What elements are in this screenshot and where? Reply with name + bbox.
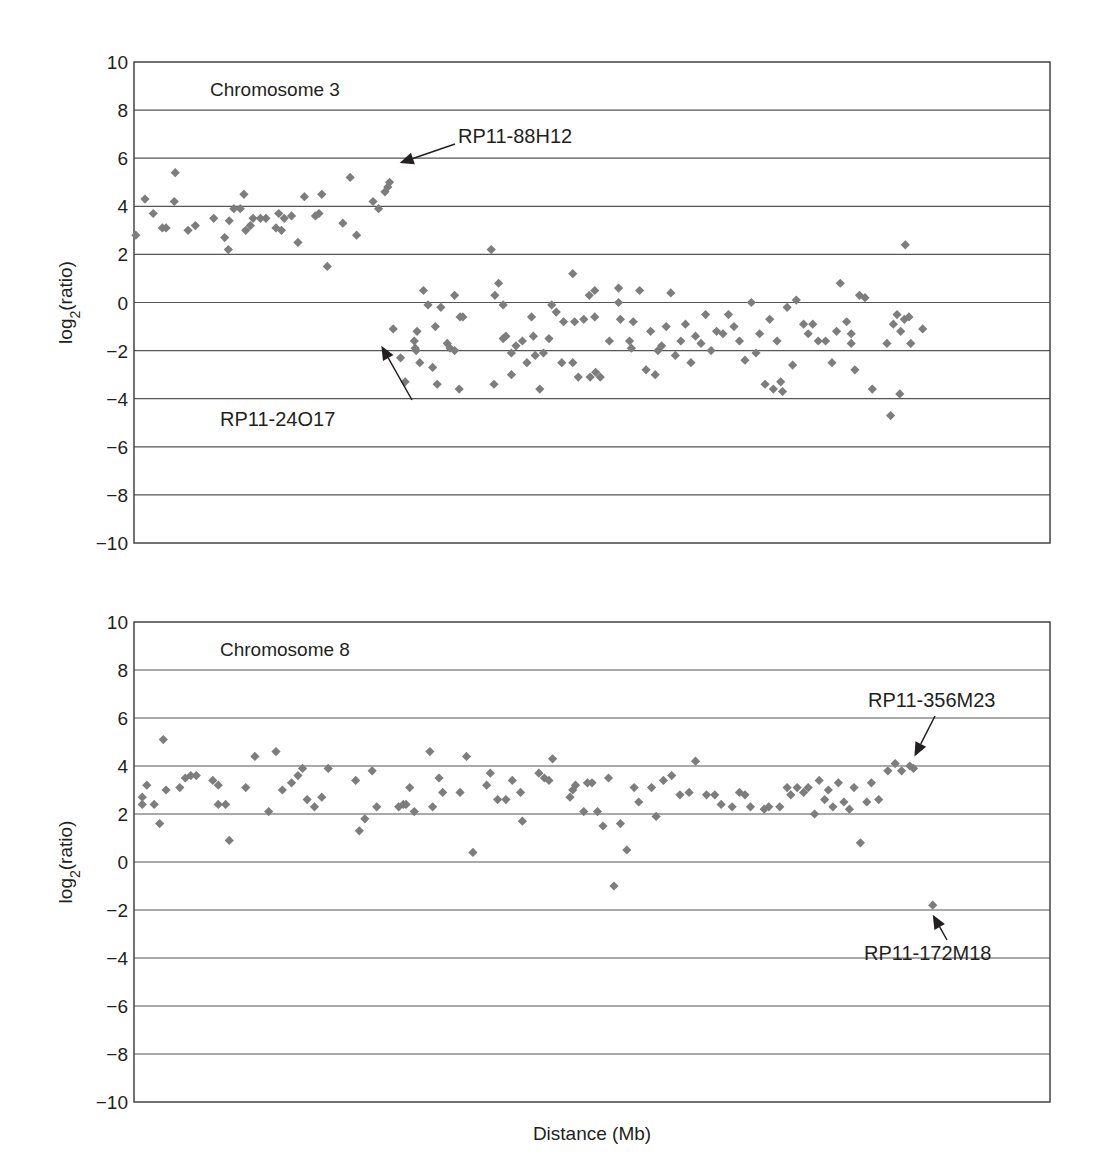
data-point <box>702 790 711 799</box>
data-point <box>776 377 785 386</box>
y-tick-label: 2 <box>117 804 128 825</box>
annotation-arrow-line <box>921 716 935 744</box>
gridlines <box>134 110 1050 495</box>
data-point <box>836 279 845 288</box>
data-point <box>346 173 355 182</box>
annotation-arrow-line <box>413 144 455 158</box>
data-point <box>310 802 319 811</box>
data-point <box>511 341 520 350</box>
annotation-label: RP11-172M18 <box>864 942 991 964</box>
data-point <box>892 310 901 319</box>
data-point <box>552 308 561 317</box>
data-point <box>434 773 443 782</box>
data-point <box>389 324 398 333</box>
data-point <box>225 836 234 845</box>
data-point <box>783 303 792 312</box>
data-point <box>696 339 705 348</box>
annotation-label: RP11-24O17 <box>220 408 335 430</box>
data-point <box>868 384 877 393</box>
data-point <box>740 356 749 365</box>
data-point <box>850 365 859 374</box>
data-point <box>874 795 883 804</box>
panel-title: Chromosome 8 <box>220 639 350 660</box>
data-point <box>625 336 634 345</box>
chromosome-8-panel: 1086420−2−4−6−8−10 Chromosome 8 log2(rat… <box>55 612 1050 1144</box>
data-point <box>241 783 250 792</box>
data-point <box>419 286 428 295</box>
data-point <box>897 766 906 775</box>
data-point <box>338 219 347 228</box>
data-point <box>209 214 218 223</box>
data-point <box>396 353 405 362</box>
data-point <box>522 358 531 367</box>
data-point <box>490 291 499 300</box>
data-point <box>746 802 755 811</box>
data-point <box>598 821 607 830</box>
data-point <box>883 766 892 775</box>
data-point <box>751 348 760 357</box>
data-point <box>374 204 383 213</box>
data-point <box>918 324 927 333</box>
data-point <box>886 411 895 420</box>
data-point <box>765 315 774 324</box>
data-point <box>493 795 502 804</box>
data-point <box>323 262 332 271</box>
data-point <box>352 231 361 240</box>
data-point <box>425 747 434 756</box>
data-point <box>351 776 360 785</box>
gridlines <box>134 670 1050 1054</box>
y-axis-label-subscript: 2 <box>67 870 83 878</box>
y-tick-label: −4 <box>106 948 128 969</box>
data-point <box>410 807 419 816</box>
data-point <box>630 783 639 792</box>
annotation-arrow-head <box>933 915 945 930</box>
data-point <box>428 802 437 811</box>
y-tick-labels: 1086420−2−4−6−8−10 <box>96 612 129 1113</box>
data-point <box>220 233 229 242</box>
data-point <box>889 320 898 329</box>
data-point <box>579 807 588 816</box>
data-point <box>278 785 287 794</box>
data-point <box>799 320 808 329</box>
data-point <box>867 778 876 787</box>
data-point <box>489 380 498 389</box>
data-point <box>539 348 548 357</box>
data-point <box>287 778 296 787</box>
data-point <box>298 764 307 773</box>
data-point <box>622 845 631 854</box>
data-point <box>175 783 184 792</box>
data-point <box>862 797 871 806</box>
data-point <box>579 315 588 324</box>
y-tick-label: 6 <box>117 708 128 729</box>
data-point <box>605 336 614 345</box>
data-point <box>431 322 440 331</box>
data-point <box>131 231 140 240</box>
data-point <box>433 380 442 389</box>
data-point <box>507 370 516 379</box>
y-tick-label: 6 <box>117 148 128 169</box>
data-point <box>159 735 168 744</box>
data-point <box>842 317 851 326</box>
data-point <box>847 329 856 338</box>
data-point <box>518 336 527 345</box>
y-tick-label: −6 <box>106 437 128 458</box>
data-point <box>772 336 781 345</box>
y-tick-label: −8 <box>106 485 128 506</box>
data-point <box>834 778 843 787</box>
data-point <box>839 797 848 806</box>
data-point <box>896 327 905 336</box>
data-point <box>667 771 676 780</box>
data-point <box>548 754 557 763</box>
data-point <box>455 788 464 797</box>
data-point <box>271 747 280 756</box>
data-point <box>646 327 655 336</box>
data-point <box>557 358 566 367</box>
data-point <box>438 788 447 797</box>
data-point <box>287 211 296 220</box>
data-point <box>142 781 151 790</box>
y-tick-label: −2 <box>106 900 128 921</box>
data-point <box>634 797 643 806</box>
data-point <box>155 819 164 828</box>
data-point <box>570 317 579 326</box>
data-point <box>410 336 419 345</box>
